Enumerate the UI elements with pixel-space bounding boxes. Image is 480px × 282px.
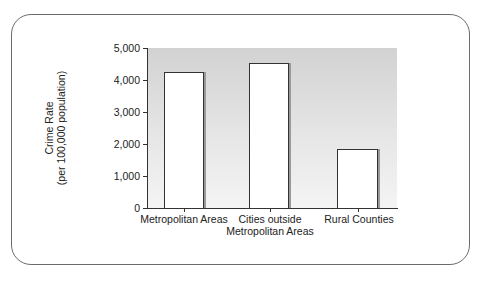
x-tick-mark [358, 209, 359, 212]
x-tick-mark [184, 209, 185, 212]
y-axis-title: Crime Rate (per 100,000 population) [43, 71, 67, 185]
y-axis-title-line-2: (per 100,000 population) [55, 71, 67, 185]
x-tick-label-line: Metropolitan Areas [140, 213, 228, 225]
y-axis [147, 48, 148, 209]
y-tick-label: 5,000 [114, 42, 140, 54]
bar-rural-counties [337, 149, 378, 208]
x-tick-label-line: Metropolitan Areas [226, 225, 314, 237]
y-tick-label: 1,000 [114, 170, 140, 182]
y-tick-label: 2,000 [114, 138, 140, 150]
x-tick-label-line: Rural Counties [324, 213, 393, 225]
bar-cities-outside-metropolitan-areas [249, 63, 289, 208]
x-tick-label: Rural Counties [324, 213, 393, 225]
x-tick-label-line: Cities outside [226, 213, 314, 225]
y-tick-label: 0 [134, 202, 140, 214]
x-tick-mark [270, 209, 271, 212]
y-tick-label: 4,000 [114, 74, 140, 86]
y-axis-title-line-1: Crime Rate [43, 71, 55, 185]
x-tick-label: Cities outside Metropolitan Areas [226, 213, 314, 237]
x-tick-label: Metropolitan Areas [140, 213, 228, 225]
y-tick-label: 3,000 [114, 106, 140, 118]
bar-metropolitan-areas [164, 72, 204, 208]
